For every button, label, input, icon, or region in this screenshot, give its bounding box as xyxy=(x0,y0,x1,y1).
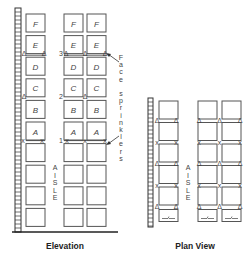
sprinkler-cross-icon: x xyxy=(155,139,159,146)
sprinkler-triangle-icon: Δ xyxy=(174,203,179,210)
rack-box xyxy=(64,144,83,162)
sprinkler-triangle-icon: Δ xyxy=(174,160,179,167)
sprinkler-triangle-icon: Δ xyxy=(197,203,202,210)
box-label: E xyxy=(33,41,39,50)
rack-box: D xyxy=(26,57,45,75)
sprinkler-cross-icon: x xyxy=(83,137,87,144)
sprinkler-triangle-icon: Δ xyxy=(64,50,69,57)
rack-box: C xyxy=(64,79,83,97)
level-number: 1 xyxy=(59,137,63,144)
rack-box: B xyxy=(87,100,106,118)
elevation-ladder xyxy=(15,8,21,232)
box-label: C xyxy=(94,84,100,93)
sprinkler-diagram: FFFEEEDDDCCCBBBAAA ΔΔΔΔΔ3ΔΔ2xxxxx1 AISLE… xyxy=(0,0,247,258)
rack-box xyxy=(87,165,106,183)
plan-rack-box xyxy=(159,210,178,222)
sprinkler-cross-icon: x xyxy=(103,137,107,144)
sprinkler-triangle-icon: Δ xyxy=(197,160,202,167)
elevation-title: Elevation xyxy=(46,241,84,251)
rack-box xyxy=(26,187,45,205)
plan-view: ΔΔΔΔΔxxxxxΔΔΔΔΔxxxxxΔΔΔΔΔ AISLE Plan Vie… xyxy=(148,98,243,251)
box-label: E xyxy=(94,41,100,50)
sprinkler-triangle-icon: Δ xyxy=(83,93,88,100)
rack-box: F xyxy=(64,14,83,32)
rack-box: B xyxy=(64,100,83,118)
sprinkler-triangle-icon: Δ xyxy=(155,203,160,210)
rack-box: C xyxy=(26,79,45,97)
box-label: A xyxy=(70,128,76,137)
box-label: A xyxy=(93,128,99,137)
level-number: 2 xyxy=(59,93,63,100)
rack-box xyxy=(26,144,45,162)
sprinkler-cross-icon: x xyxy=(174,139,178,146)
rack-box xyxy=(64,208,83,226)
box-label: B xyxy=(33,106,39,115)
rack-box: D xyxy=(87,57,106,75)
sprinkler-cross-icon: x xyxy=(21,137,25,144)
arrow-icon xyxy=(106,136,119,145)
face-sprinklers-label: Facesprinklers xyxy=(119,54,123,162)
rack-box xyxy=(26,208,45,226)
sprinkler-triangle-icon: Δ xyxy=(217,203,222,210)
rack-box xyxy=(87,208,106,226)
plan-rack-box xyxy=(198,166,217,184)
sprinkler-triangle-icon: Δ xyxy=(217,160,222,167)
box-label: C xyxy=(33,84,39,93)
sprinkler-cross-icon: x xyxy=(238,182,242,189)
sprinkler-triangle-icon: Δ xyxy=(42,50,47,57)
plan-ladder xyxy=(148,98,153,227)
aisle-label-plan: AISLE xyxy=(186,164,191,201)
sprinkler-cross-icon: x xyxy=(197,182,201,189)
rack-box: B xyxy=(26,100,45,118)
sprinkler-triangle-icon: Δ xyxy=(238,160,243,167)
rack-box: F xyxy=(87,14,106,32)
sprinkler-cross-icon: x xyxy=(40,137,44,144)
rack-box xyxy=(87,187,106,205)
box-label: B xyxy=(94,106,100,115)
box-label: D xyxy=(94,63,100,72)
level-number: 3 xyxy=(59,50,63,57)
sprinkler-triangle-icon: Δ xyxy=(238,117,243,124)
sprinkler-triangle-icon: Δ xyxy=(197,117,202,124)
sprinkler-triangle-icon: Δ xyxy=(83,50,88,57)
box-label: C xyxy=(71,84,77,93)
rack-box: C xyxy=(87,79,106,97)
box-label: D xyxy=(71,63,77,72)
sprinkler-cross-icon: x xyxy=(238,139,242,146)
rack-box: F xyxy=(26,14,45,32)
rack-box xyxy=(87,144,106,162)
sprinkler-triangle-icon: Δ xyxy=(174,117,179,124)
box-label: D xyxy=(33,63,39,72)
box-label: B xyxy=(71,106,77,115)
plan-rack-box xyxy=(222,210,241,222)
sprinkler-triangle-icon: Δ xyxy=(155,160,160,167)
plan-rack-box xyxy=(198,210,217,222)
sprinkler-triangle-icon: Δ xyxy=(217,117,222,124)
rack-box xyxy=(64,187,83,205)
arrow-icon xyxy=(106,53,119,62)
sprinkler-cross-icon: x xyxy=(174,182,178,189)
sprinkler-triangle-icon: Δ xyxy=(22,93,27,100)
sprinkler-cross-icon: x xyxy=(155,182,159,189)
elevation-view: FFFEEEDDDCCCBBBAAA ΔΔΔΔΔ3ΔΔ2xxxxx1 AISLE… xyxy=(12,8,123,251)
sprinkler-cross-icon: x xyxy=(197,139,201,146)
rack-box xyxy=(26,165,45,183)
plan-view-title: Plan View xyxy=(175,241,215,251)
plan-rack-box xyxy=(198,123,217,141)
sprinkler-triangle-icon: Δ xyxy=(22,50,27,57)
sprinkler-cross-icon: x xyxy=(218,139,222,146)
sprinkler-cross-icon: x xyxy=(65,137,69,144)
box-label: E xyxy=(71,41,77,50)
sprinkler-triangle-icon: Δ xyxy=(238,203,243,210)
rack-box: D xyxy=(64,57,83,75)
rack-box xyxy=(64,165,83,183)
box-label: A xyxy=(32,128,38,137)
sprinkler-cross-icon: x xyxy=(218,182,222,189)
sprinkler-triangle-icon: Δ xyxy=(155,117,160,124)
aisle-label-elevation: AISLE xyxy=(53,164,58,201)
